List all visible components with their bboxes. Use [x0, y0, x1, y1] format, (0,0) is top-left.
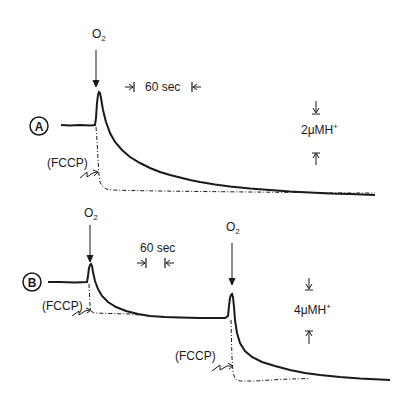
svg-text:60 sec: 60 sec: [140, 241, 175, 255]
oxygen-pulse-figure: A O2 60 sec 2μMH+: [0, 0, 403, 409]
svg-text:(FCCP): (FCCP): [42, 299, 83, 313]
svg-text:A: A: [35, 120, 44, 134]
time-scale-b: 60 sec: [137, 241, 175, 268]
fccp-marker-b1: (FCCP): [42, 299, 91, 316]
panel-b: B O2 60 sec (FCCP) O2: [23, 206, 390, 381]
svg-text:(FCCP): (FCCP): [47, 156, 88, 170]
svg-text:(FCCP): (FCCP): [175, 349, 216, 363]
trace-a-control: [61, 92, 375, 195]
svg-text:60 sec: 60 sec: [145, 80, 180, 94]
panel-b-label: B: [23, 273, 41, 291]
svg-text:2μMH+: 2μMH+: [301, 122, 338, 137]
o2-pulse-marker-b2: O2: [226, 220, 240, 285]
o2-pulse-marker-a: O2: [92, 27, 106, 87]
svg-text:4μMH+: 4μMH+: [294, 302, 331, 317]
concentration-scale-a: 2μMH+: [301, 101, 338, 165]
concentration-scale-b: 4μMH+: [294, 278, 331, 344]
time-scale-a: 60 sec: [125, 80, 201, 94]
arrow-down-icon: [87, 255, 93, 262]
fccp-marker-b2: (FCCP): [175, 349, 233, 371]
svg-text:O2: O2: [92, 27, 106, 43]
o2-pulse-marker-b1: O2: [84, 206, 98, 262]
trace-b-control: [48, 264, 390, 380]
svg-text:B: B: [28, 276, 37, 290]
arrow-down-icon: [93, 80, 99, 87]
arrow-down-icon: [229, 278, 235, 285]
svg-text:O2: O2: [226, 220, 240, 236]
panel-a-label: A: [30, 117, 48, 135]
svg-text:O2: O2: [84, 206, 98, 222]
panel-a: A O2 60 sec 2μMH+: [30, 27, 375, 195]
fccp-marker-a: (FCCP): [47, 156, 98, 178]
